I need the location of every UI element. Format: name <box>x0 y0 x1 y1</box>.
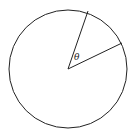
angle-theta-label: θ <box>74 52 80 62</box>
circle-diagram: θ <box>0 0 132 138</box>
diagram: θ <box>0 0 132 138</box>
